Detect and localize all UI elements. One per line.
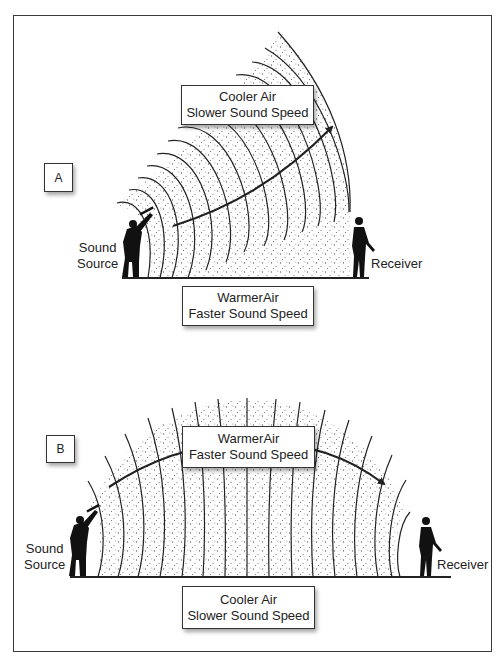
panel-a-lower-air-box: WarmerAir Faster Sound Speed — [182, 286, 314, 326]
panel-a-upper-air-label: Cooler Air — [182, 89, 313, 105]
panel-b-tag: B — [46, 435, 75, 463]
panel-b-lower-speed-label: Slower Sound Speed — [183, 608, 314, 624]
panel-a-lower-air-label: WarmerAir — [183, 290, 313, 306]
panel-a-upper-air-box: Cooler Air Slower Sound Speed — [181, 85, 314, 125]
panel-a-lower-speed-label: Faster Sound Speed — [183, 306, 313, 322]
panel-b-lower-air-box: Cooler Air Slower Sound Speed — [182, 586, 315, 629]
panel-b-receiver-label: Receiver — [437, 557, 488, 573]
panel-a-source-label: Sound Source — [77, 240, 118, 272]
panel-a-upper-speed-label: Slower Sound Speed — [182, 105, 313, 121]
panel-b-upper-speed-label: Faster Sound Speed — [183, 447, 314, 463]
panel-a-tag: A — [44, 163, 73, 192]
panel-b-source-label: Sound Source — [24, 541, 65, 573]
panel-b-upper-air-box: WarmerAir Faster Sound Speed — [182, 426, 315, 468]
panel-a-graphic — [117, 32, 375, 278]
panel-a-wave-region — [118, 32, 350, 278]
panel-b-graphic — [69, 398, 451, 577]
panel-a-receiver-label: Receiver — [371, 256, 422, 272]
panel-b-lower-air-label: Cooler Air — [183, 592, 314, 608]
panel-b-upper-air-label: WarmerAir — [183, 431, 314, 447]
